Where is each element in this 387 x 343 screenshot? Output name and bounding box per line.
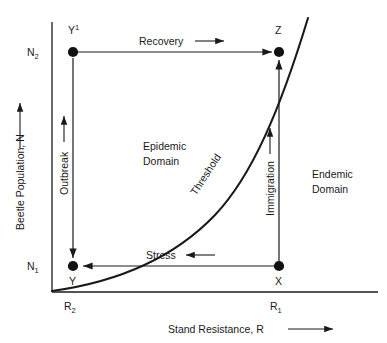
threshold-diagram-figure: Y1 Z Y X N2 N1 R2 R1 Beetle Popula [0,0,387,343]
transition-label-immigration: Immigration [264,161,276,216]
point-marker-y [68,261,78,271]
y-tick-label-n1: N1 [27,260,39,275]
y-tick-n2-base: N [27,46,35,58]
axis-titles: Beetle Population, N Stand Resistance, R [14,103,333,335]
y-tick-n1-base: N [27,260,35,272]
x-tick-label-r1: R1 [270,300,282,315]
region-label-epidemic-line2: Domain [143,155,179,167]
transition-label-stress: Stress [146,249,176,261]
y-axis-title: Beetle Population, N [14,134,26,230]
transition-label-recovery: Recovery [139,35,184,47]
threshold-curve-group [52,18,308,291]
threshold-curve [52,18,308,291]
point-marker-z [274,47,284,57]
x-axis-title: Stand Resistance, R [168,323,264,335]
region-label-endemic-line1: Endemic [312,168,353,180]
point-label-y-prime: Y1 [68,23,79,36]
y-tick-n1-sub: 1 [35,266,39,275]
diagram-canvas: Y1 Z Y X N2 N1 R2 R1 Beetle Popula [0,0,387,343]
point-marker-y-prime [68,47,78,57]
point-label-x: X [275,275,282,287]
region-label-epidemic-line1: Epidemic [143,140,186,152]
point-marker-x [274,261,284,271]
point-label-y: Y [69,275,76,287]
point-label-z: Z [275,24,282,36]
x-tick-r1-sub: 1 [278,306,282,315]
y-tick-label-n2: N2 [27,46,39,61]
curve-label-group: Threshold [188,151,224,197]
y-tick-n2-sub: 2 [35,52,39,61]
region-label-endemic-line2: Domain [312,183,348,195]
transition-label-outbreak: Outbreak [58,151,70,195]
point-label-y-prime-base: Y [68,24,75,36]
x-tick-label-r2: R2 [64,300,76,315]
curve-label-threshold: Threshold [188,151,224,197]
point-label-y-prime-sup: 1 [75,23,79,32]
x-tick-r2-sub: 2 [72,306,76,315]
